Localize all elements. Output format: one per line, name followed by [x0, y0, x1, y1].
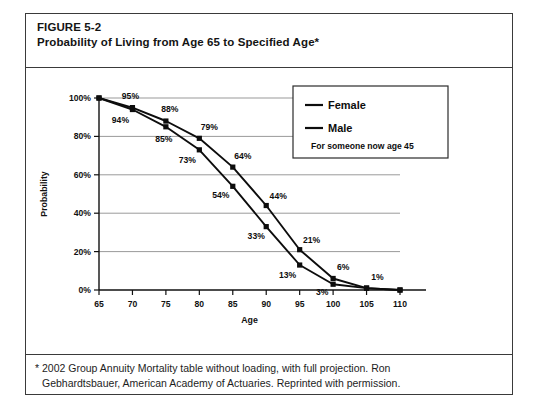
- data-marker: [130, 107, 135, 112]
- data-marker: [163, 118, 168, 123]
- data-point-label: 94%: [112, 115, 130, 125]
- footnote-box: * 2002 Group Annuity Mortality table wit…: [25, 355, 513, 395]
- y-tick-label: 60%: [74, 170, 92, 180]
- x-tick-label: 65: [94, 299, 104, 309]
- data-marker: [197, 136, 202, 141]
- data-marker: [297, 262, 302, 267]
- probability-line-chart: 0%20%40%60%80%100%6570758085909510010511…: [25, 68, 513, 355]
- data-marker: [230, 165, 235, 170]
- data-marker: [331, 282, 336, 287]
- data-point-label: 73%: [179, 155, 197, 165]
- x-tick-label: 95: [295, 299, 305, 309]
- x-tick-label: 110: [393, 299, 407, 309]
- figure-number-label: FIGURE 5-2: [37, 20, 513, 35]
- x-tick-label: 85: [228, 299, 238, 309]
- data-marker: [364, 285, 369, 290]
- legend-note: For someone now age 45: [311, 141, 414, 151]
- data-point-label: 21%: [303, 235, 321, 245]
- data-point-label: 13%: [279, 270, 297, 280]
- footnote-line-2: Gebhardtsbauer, American Academy of Actu…: [35, 376, 499, 391]
- footnote-line-1: * 2002 Group Annuity Mortality table wit…: [35, 361, 499, 376]
- x-tick-label: 100: [326, 299, 341, 309]
- data-point-label: 85%: [155, 134, 173, 144]
- plot-area: 0%20%40%60%80%100%6570758085909510010511…: [25, 68, 513, 355]
- data-marker: [264, 224, 269, 229]
- legend-label-male: Male: [328, 122, 352, 134]
- data-point-label: 44%: [270, 191, 288, 201]
- data-marker: [264, 203, 269, 208]
- x-tick-label: 90: [261, 299, 271, 309]
- data-marker: [297, 247, 302, 252]
- data-point-label: 1%: [371, 272, 384, 282]
- x-tick-label: 105: [359, 299, 374, 309]
- data-marker: [230, 184, 235, 189]
- data-marker: [331, 276, 336, 281]
- y-tick-label: 0%: [79, 285, 92, 295]
- figure-title-box: FIGURE 5-2 Probability of Living from Ag…: [25, 13, 513, 68]
- x-tick-label: 70: [128, 299, 138, 309]
- data-point-label: 33%: [248, 231, 266, 241]
- y-tick-label: 40%: [74, 208, 92, 218]
- y-tick-label: 20%: [74, 247, 92, 257]
- x-tick-label: 80: [195, 299, 205, 309]
- data-marker: [197, 147, 202, 152]
- data-point-label: 95%: [122, 91, 140, 101]
- data-point-label: 54%: [212, 190, 230, 200]
- data-point-label: 88%: [161, 104, 179, 114]
- figure-page: FIGURE 5-2 Probability of Living from Ag…: [0, 0, 535, 409]
- data-marker: [163, 124, 168, 129]
- y-tick-label: 100%: [69, 93, 91, 103]
- figure-title: Probability of Living from Age 65 to Spe…: [37, 35, 513, 50]
- data-point-label: 6%: [337, 262, 350, 272]
- data-point-label: 79%: [201, 122, 219, 132]
- y-axis-title: Probability: [39, 171, 49, 217]
- chart-section: 0%20%40%60%80%100%6570758085909510010511…: [25, 68, 513, 355]
- data-point-label: 3%: [316, 287, 329, 297]
- data-marker: [96, 95, 101, 100]
- data-marker: [397, 287, 402, 292]
- y-tick-label: 80%: [74, 131, 92, 141]
- data-point-label: 64%: [234, 151, 252, 161]
- x-tick-label: 75: [161, 299, 171, 309]
- legend-label-female: Female: [328, 99, 366, 111]
- x-axis-title: Age: [241, 315, 258, 325]
